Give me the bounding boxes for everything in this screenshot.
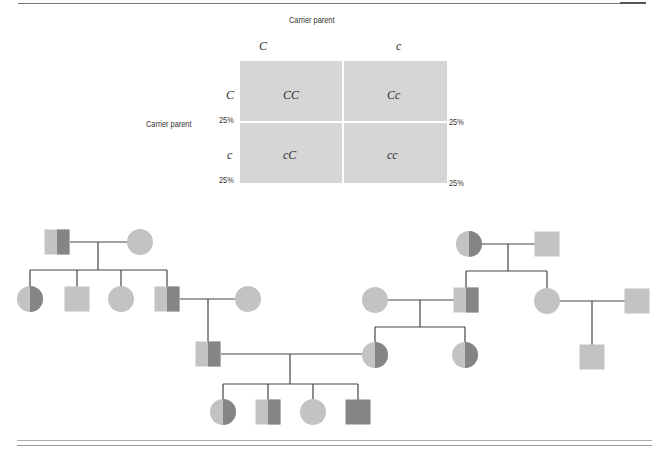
carrier-half: [469, 231, 483, 258]
female-circle-carrier: [452, 342, 479, 369]
male-square-unaffected: [625, 289, 650, 314]
female-circle-unaffected: [534, 288, 560, 314]
male-square-carrier: [196, 341, 222, 368]
female-circle-unaffected: [127, 229, 153, 255]
male-square-unaffected: [65, 287, 90, 312]
male-square-unaffected: [580, 345, 605, 370]
female-circle-unaffected: [108, 286, 134, 312]
carrier-half: [268, 399, 282, 426]
female-circle-carrier: [210, 399, 237, 426]
carrier-half: [57, 229, 71, 256]
carrier-half: [208, 341, 222, 368]
male-square-affected: [346, 400, 371, 425]
bottom-rule-1: [17, 440, 652, 441]
bottom-rule-2: [17, 445, 652, 446]
carrier-half: [223, 399, 237, 426]
female-circle-carrier: [456, 231, 483, 258]
carrier-half: [30, 286, 44, 313]
carrier-half: [375, 342, 389, 369]
female-circle-unaffected: [300, 399, 326, 425]
female-circle-carrier: [362, 342, 389, 369]
male-square-unaffected: [535, 232, 560, 257]
female-circle-unaffected: [362, 287, 388, 313]
carrier-half: [466, 287, 480, 314]
male-square-carrier: [454, 287, 480, 314]
male-square-carrier: [256, 399, 282, 426]
male-square-carrier: [45, 229, 71, 256]
female-circle-unaffected: [235, 286, 261, 312]
male-square-carrier: [155, 286, 181, 313]
carrier-half: [167, 286, 181, 313]
female-circle-carrier: [17, 286, 44, 313]
carrier-half: [465, 342, 479, 369]
pedigree-chart: [0, 0, 662, 452]
